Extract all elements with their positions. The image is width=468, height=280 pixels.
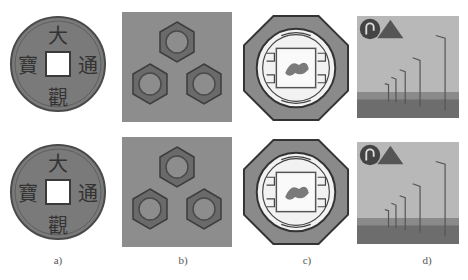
panel-b-bottom-hex-nuts xyxy=(120,137,234,247)
coin-char-bottom: 觀 xyxy=(48,210,68,239)
coin-char-bottom: 觀 xyxy=(48,82,68,111)
caption-a: a) xyxy=(43,254,73,266)
panel-d-bottom-street xyxy=(357,139,459,247)
panel-d-top-street xyxy=(357,13,459,121)
coin-char-left: 寶 xyxy=(18,50,38,79)
panel-a-top-coin: 大 寶 通 觀 xyxy=(8,14,108,114)
coin-char-right: 通 xyxy=(78,178,98,207)
panel-c-bottom-octagon xyxy=(242,138,350,246)
coin-char-right: 通 xyxy=(78,50,98,79)
coin-char-top: 大 xyxy=(48,20,68,49)
coin-char-top: 大 xyxy=(48,148,68,177)
coin-char-left: 寶 xyxy=(18,178,38,207)
caption-c: c) xyxy=(292,254,322,266)
caption-d: d) xyxy=(412,254,442,266)
panel-c-top-octagon xyxy=(242,14,350,122)
panel-a-bottom-coin: 大 寶 通 觀 xyxy=(8,142,108,242)
panel-b-top-hex-nuts xyxy=(120,12,234,122)
caption-b: b) xyxy=(168,254,198,266)
